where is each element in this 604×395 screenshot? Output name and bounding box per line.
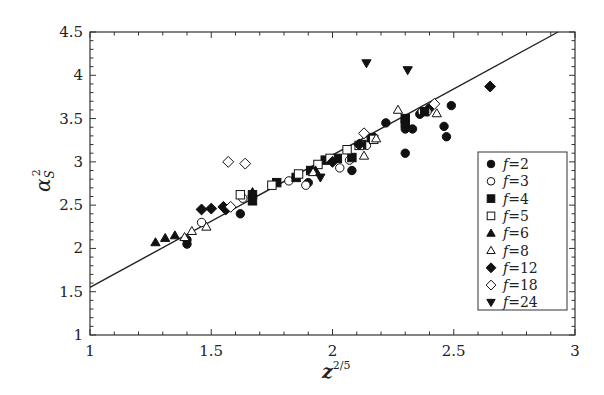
legend-label: f=6 (502, 225, 529, 241)
filled-circle-marker (236, 210, 244, 218)
filled-diamond-marker (485, 81, 496, 92)
filled-circle-marker (401, 149, 409, 157)
filled-triangle-down-marker (403, 67, 412, 75)
filled-square-marker (487, 195, 495, 203)
open-circle-marker (487, 178, 495, 186)
data-points (151, 60, 496, 248)
open-square-marker (343, 146, 351, 154)
x-tick-label: 2.5 (442, 342, 466, 360)
filled-triangle-up-marker (161, 233, 170, 241)
filled-triangle-down-marker (362, 60, 371, 68)
x-tick-label: 3 (570, 342, 580, 360)
filled-square-marker (420, 107, 428, 115)
legend-label: f=4 (502, 191, 529, 207)
filled-triangle-up-marker (151, 238, 160, 246)
filled-diamond-marker (206, 203, 217, 214)
open-circle-marker (336, 164, 344, 172)
y-tick-label: 1.5 (59, 283, 83, 301)
filled-square-marker (348, 153, 356, 161)
y-tick-label: 4.5 (59, 23, 83, 41)
y-tick-label: 2 (73, 239, 83, 257)
filled-circle-marker (440, 122, 448, 130)
svg-text:αS2: αS2 (30, 169, 57, 192)
x-tick-label: 1.5 (199, 342, 223, 360)
filled-circle-marker (447, 101, 455, 109)
filled-circle-marker (382, 119, 390, 127)
legend: f=2f=3f=4f=5f=6f=8f=12f=18f=24 (478, 152, 567, 310)
open-square-marker (236, 191, 244, 199)
filled-circle-marker (487, 160, 495, 168)
filled-diamond-marker (196, 204, 207, 215)
y-tick-label: 1 (73, 326, 83, 344)
filled-square-marker (401, 119, 409, 127)
x-axis-label: z2/5 (321, 359, 351, 382)
legend-label: f=5 (502, 208, 529, 224)
y-tick-label: 2.5 (59, 196, 83, 214)
open-diamond-marker (223, 156, 234, 167)
legend-label: f=12 (502, 260, 538, 276)
filled-circle-marker (442, 133, 450, 141)
open-triangle-up-marker (393, 105, 402, 113)
open-square-marker (294, 170, 302, 178)
filled-circle-marker (348, 166, 356, 174)
x-tick-label: 2 (328, 342, 338, 360)
legend-label: f=3 (502, 173, 529, 189)
y-tick-label: 3.5 (59, 110, 83, 128)
y-tick-label: 3 (73, 153, 83, 171)
open-square-marker (487, 212, 495, 220)
legend-label: f=18 (502, 277, 538, 293)
open-diamond-marker (240, 158, 251, 169)
y-tick-label: 4 (73, 66, 83, 84)
open-triangle-up-marker (359, 151, 368, 159)
y-axis-label: αS2 (30, 169, 57, 192)
x-tick-label: 1 (85, 342, 95, 360)
filled-triangle-up-marker (170, 231, 179, 239)
legend-label: f=2 (502, 156, 529, 172)
open-circle-marker (302, 181, 310, 189)
legend-label: f=24 (502, 294, 538, 310)
open-square-marker (268, 181, 276, 189)
legend-label: f=8 (502, 243, 529, 259)
scatter-chart: 11.522.5311.522.533.544.5 f=2f=3f=4f=5f=… (0, 0, 604, 395)
filled-triangle-down-marker (316, 174, 325, 182)
